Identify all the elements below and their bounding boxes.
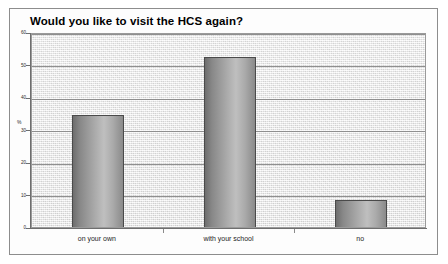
y-tick-label: 50 (4, 63, 26, 68)
chart-title: Would you like to visit the HCS again? (30, 15, 243, 27)
bar (72, 115, 124, 228)
x-axis-line (31, 228, 427, 229)
y-tick-mark (26, 163, 31, 164)
y-axis-title: % (17, 120, 21, 125)
y-tick-label: 30 (4, 128, 26, 133)
y-tick-label: 0 (4, 225, 26, 230)
y-axis-line (30, 33, 31, 229)
chart-page: Would you like to visit the HCS again? 0… (0, 0, 448, 264)
gridline (32, 34, 425, 35)
x-tick-mark (163, 229, 164, 233)
y-tick-label: 40 (4, 95, 26, 100)
bar (204, 57, 256, 228)
bar (335, 200, 387, 228)
y-tick-mark (26, 195, 31, 196)
y-tick-label: 20 (4, 160, 26, 165)
x-tick-label: on your own (31, 235, 163, 242)
y-tick-label: 60 (4, 30, 26, 35)
y-tick-mark (26, 33, 31, 34)
x-tick-label: with your school (163, 235, 295, 242)
y-tick-mark (26, 130, 31, 131)
x-tick-mark (294, 229, 295, 233)
bar-chart-figure: Would you like to visit the HCS again? 0… (0, 0, 448, 264)
y-tick-label: 10 (4, 193, 26, 198)
y-tick-mark (26, 65, 31, 66)
plot-area (31, 33, 426, 228)
y-tick-mark (26, 98, 31, 99)
x-tick-label: no (294, 235, 426, 242)
